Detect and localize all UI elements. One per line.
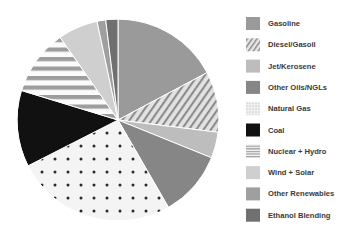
legend-item-label: Nuclear + Hydro (268, 147, 327, 156)
swatch-solid-mid-gray-icon (246, 187, 260, 200)
swatch-dots-icon (246, 102, 260, 115)
swatch-horizontal-stripes-icon (246, 145, 260, 158)
swatch-solid-gray-icon (246, 17, 260, 30)
swatch-solid-light-gray-icon (246, 60, 260, 73)
pie-slices-group: Gasoline: 17.2%Diesel/Gasoil: 9.7%Jet/Ke… (17, 19, 219, 221)
legend-item-label: Coal (268, 126, 284, 135)
legend-item-label: Other Renewables (268, 189, 334, 198)
legend-item-label: Wind + Solar (268, 168, 314, 177)
legend-item-label: Diesel/Gasoil (268, 40, 316, 49)
swatch-solid-black-icon (246, 124, 260, 137)
swatch-solid-pale-gray-icon (246, 166, 260, 179)
legend-item-label: Ethanol Blending (268, 211, 331, 220)
legend-item-label: Jet/Kerosene (268, 62, 316, 71)
pie-chart-figure: Gasoline: 17.2%Diesel/Gasoil: 9.7%Jet/Ke… (0, 0, 357, 235)
legend-item-label: Other Oils/NGLs (268, 83, 327, 92)
swatch-diagonal-hatch-icon (246, 38, 260, 51)
swatch-solid-dark-gray-icon (246, 81, 260, 94)
legend-item-label: Gasoline (268, 19, 300, 28)
swatch-solid-charcoal-icon (246, 209, 260, 222)
legend-item-label: Natural Gas (268, 104, 311, 113)
